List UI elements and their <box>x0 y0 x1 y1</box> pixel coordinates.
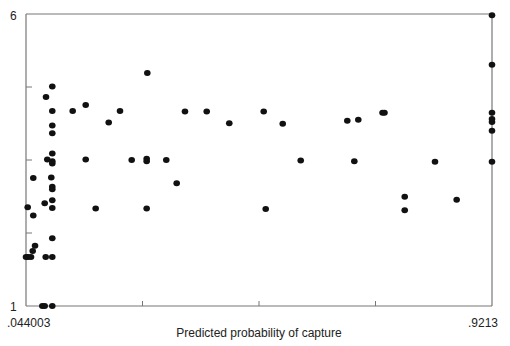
data-point <box>173 180 180 186</box>
data-point <box>226 120 233 126</box>
data-point <box>489 128 496 134</box>
data-point <box>117 108 124 114</box>
data-point <box>49 303 56 309</box>
data-point <box>49 123 56 129</box>
data-point <box>432 159 439 165</box>
data-point <box>489 110 496 116</box>
data-point <box>82 156 89 162</box>
x-axis-title: Predicted probability of capture <box>176 326 342 340</box>
data-point <box>489 12 496 18</box>
data-point <box>297 158 304 164</box>
data-point <box>30 175 37 181</box>
data-point <box>143 205 150 211</box>
data-point <box>279 121 286 127</box>
data-point <box>43 94 50 100</box>
data-point <box>182 109 189 115</box>
data-point <box>344 118 351 124</box>
data-point <box>144 70 151 76</box>
data-point <box>49 151 56 157</box>
data-point <box>49 197 56 203</box>
data-point <box>49 205 56 211</box>
data-point <box>28 254 35 260</box>
data-point <box>260 109 267 115</box>
data-point <box>401 194 408 200</box>
data-point <box>49 83 56 89</box>
data-point <box>69 108 76 114</box>
x-tick-label-left: .044003 <box>7 316 51 330</box>
data-point <box>203 109 210 115</box>
plot-frame <box>26 14 492 306</box>
data-point <box>105 120 112 126</box>
data-point <box>41 303 48 309</box>
data-point <box>49 108 56 114</box>
data-point <box>163 157 170 163</box>
data-point <box>351 158 358 164</box>
data-point <box>381 110 388 116</box>
data-point <box>92 205 99 211</box>
data-point <box>489 159 496 165</box>
data-point <box>49 254 56 260</box>
data-point <box>143 158 150 164</box>
data-point <box>49 186 56 192</box>
data-point <box>30 212 37 218</box>
data-point <box>489 62 496 68</box>
data-point <box>24 204 31 210</box>
data-point <box>32 243 39 249</box>
data-point <box>489 119 496 125</box>
y-tick-label-bottom: 1 <box>10 300 17 314</box>
data-point <box>128 157 135 163</box>
data-point <box>401 207 408 213</box>
y-tick-label-top: 6 <box>10 9 17 23</box>
data-point <box>49 130 56 136</box>
axis-ticks <box>26 87 376 306</box>
data-points <box>23 12 496 309</box>
data-point <box>29 248 36 254</box>
data-point <box>453 197 460 203</box>
data-point <box>42 254 49 260</box>
x-tick-label-right: .9213 <box>468 316 498 330</box>
data-point <box>355 117 362 123</box>
data-point <box>41 200 48 206</box>
data-point <box>49 235 56 241</box>
data-point <box>48 175 55 181</box>
scatter-chart: 6 1 .044003 .9213 Predicted probability … <box>0 0 510 346</box>
data-point <box>49 161 56 167</box>
data-point <box>262 206 269 212</box>
data-point <box>82 102 89 108</box>
